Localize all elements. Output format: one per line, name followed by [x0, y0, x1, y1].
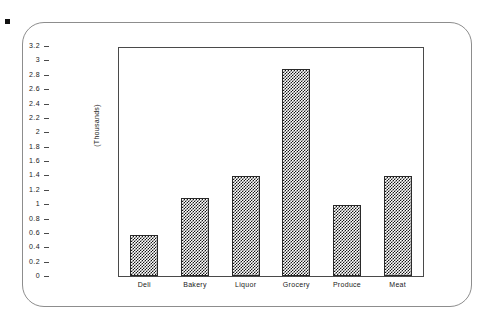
- y-tick-label: 0.8: [29, 214, 40, 224]
- y-tick-mark: [44, 132, 49, 133]
- bar-chart: (Thousands) 00.20.40.60.811.21.41.61.822…: [0, 0, 493, 329]
- bar-bakery: [181, 198, 209, 276]
- y-tick-mark: [44, 276, 49, 277]
- y-tick-label: 0.2: [29, 257, 40, 267]
- y-axis-title: (Thousands): [93, 86, 100, 166]
- y-tick-label: 0: [36, 271, 40, 281]
- y-tick-mark: [44, 46, 49, 47]
- y-tick-label: 2: [36, 127, 40, 137]
- y-tick-label: 1.4: [29, 170, 40, 180]
- y-tick-label: 2.2: [29, 113, 40, 123]
- bar-produce: [333, 205, 361, 276]
- y-tick-mark: [44, 247, 49, 248]
- y-tick-mark: [44, 190, 49, 191]
- y-tick-mark: [44, 233, 49, 234]
- y-tick-mark: [44, 89, 49, 90]
- x-axis-label-liquor: Liquor: [220, 281, 271, 288]
- bar-liquor: [232, 176, 260, 276]
- y-tick-label: 1: [36, 199, 40, 209]
- y-tick-label: 3.2: [29, 41, 40, 51]
- y-tick-mark: [44, 75, 49, 76]
- bar-deli: [130, 235, 158, 276]
- y-tick-mark: [44, 262, 49, 263]
- y-tick-label: 2.8: [29, 70, 40, 80]
- x-axis-label-meat: Meat: [372, 281, 423, 288]
- x-axis-label-bakery: Bakery: [170, 281, 221, 288]
- bar-meat: [384, 176, 412, 276]
- bar-grocery: [282, 69, 310, 276]
- y-tick-label: 1.6: [29, 156, 40, 166]
- y-tick-label: 1.2: [29, 185, 40, 195]
- y-tick-label: 2.4: [29, 99, 40, 109]
- y-tick-mark: [44, 204, 49, 205]
- y-tick-mark: [44, 60, 49, 61]
- y-tick-mark: [44, 104, 49, 105]
- y-tick-label: 3: [36, 55, 40, 65]
- x-axis-label-produce: Produce: [322, 281, 373, 288]
- y-tick-mark: [44, 219, 49, 220]
- y-tick-label: 0.4: [29, 242, 40, 252]
- y-tick-label: 1.8: [29, 142, 40, 152]
- bars-group: [119, 48, 423, 276]
- x-axis-label-deli: Deli: [119, 281, 170, 288]
- y-tick-label: 0.6: [29, 228, 40, 238]
- y-tick-mark: [44, 161, 49, 162]
- y-tick-mark: [44, 118, 49, 119]
- x-axis-labels: DeliBakeryLiquorGroceryProduceMeat: [119, 281, 423, 295]
- x-axis-label-grocery: Grocery: [271, 281, 322, 288]
- y-tick-label: 2.6: [29, 84, 40, 94]
- y-tick-mark: [44, 147, 49, 148]
- y-tick-mark: [44, 175, 49, 176]
